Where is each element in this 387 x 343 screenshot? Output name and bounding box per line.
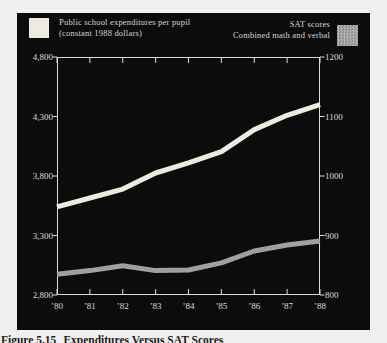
x-axis-label: ’80 [42,301,72,311]
chart-panel: Public school expenditures per pupil (co… [17,13,370,330]
x-axis-label: ’88 [305,301,335,311]
sat-legend-line1: SAT scores [233,19,330,30]
x-axis-label: ’86 [239,301,269,311]
y-axis-label-right: 1200 [325,52,343,62]
plot-frame [58,58,320,295]
figure-caption: Figure 5.15Expenditures Versus SAT Score… [1,334,381,343]
sat-legend-label: SAT scores Combined math and verbal [233,19,330,41]
y-axis-label-right: 800 [325,290,339,300]
expenditures-legend-swatch [29,18,49,38]
x-axis-label: ’82 [108,301,138,311]
y-axis-label-left: 2,800 [17,290,53,300]
y-axis-label-left: 4,800 [17,52,53,62]
figure-number: Figure 5.15 [1,334,56,343]
expenditures-legend-line1: Public school expenditures per pupil [59,17,190,28]
y-axis-label-right: 1000 [325,171,343,181]
x-axis-label: ’87 [272,301,302,311]
y-axis-label-right: 1100 [325,112,343,122]
sat-legend-swatch [337,25,358,46]
x-axis-label: ’81 [75,301,105,311]
sat-legend-line2: Combined math and verbal [233,30,330,41]
x-axis-label: ’83 [141,301,171,311]
chart-canvas [57,57,320,295]
expenditures-legend-line2: (constant 1988 dollars) [59,28,190,39]
plot-area [57,57,320,295]
sat-scores-line [57,241,320,274]
figure-title: Expenditures Versus SAT Scores [63,334,223,343]
y-axis-label-right: 900 [325,231,339,241]
page: Public school expenditures per pupil (co… [0,0,387,343]
y-axis-label-left: 3,300 [17,231,53,241]
y-axis-label-left: 3,800 [17,171,53,181]
y-axis-label-left: 4,300 [17,112,53,122]
expenditures-legend-label: Public school expenditures per pupil (co… [59,17,190,39]
x-axis-label: ’85 [206,301,236,311]
x-axis-label: ’84 [174,301,204,311]
expenditures-line [57,105,320,207]
